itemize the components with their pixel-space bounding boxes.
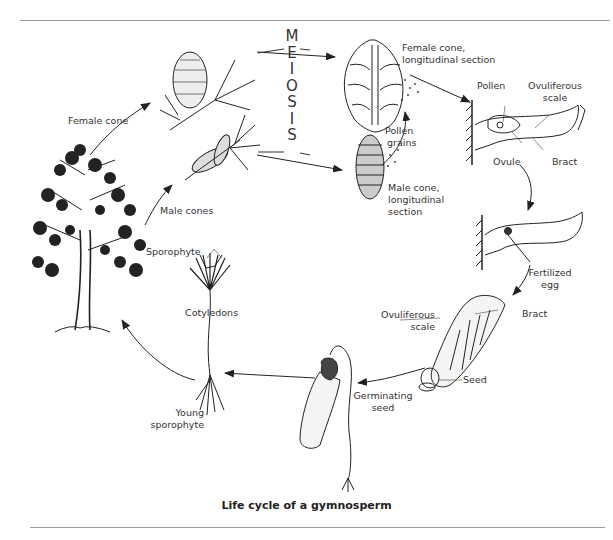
label-germinating-seed-line2: seed	[348, 402, 418, 414]
meiosis-letter: S	[285, 94, 299, 111]
label-female-cone-section-line2: longitudinal section	[402, 54, 495, 66]
label-germinating-seed-line1: Germinating	[348, 390, 418, 402]
label-ovuliferous-scale-line2: scale	[515, 92, 595, 104]
germinating-seed-illustration	[300, 346, 354, 492]
label-pollen-grains-line1: Pollen	[385, 125, 413, 137]
label-seed: Seed	[463, 374, 487, 386]
meiosis-label: M E I O S I S	[285, 28, 299, 144]
label-ovuliferous-scale-line1: Ovuliferous	[515, 80, 595, 92]
meiosis-letter: I	[285, 111, 299, 128]
label-sporophyte: Sporophyte	[146, 246, 201, 258]
label-fertilized-egg-line1: Fertilized	[515, 267, 585, 279]
meiosis-letter: O	[285, 78, 299, 95]
label-bract-b: Bract	[522, 308, 547, 320]
label-male-cone-section-line3: section	[388, 206, 422, 218]
label-young-sporophyte-line1: Young	[130, 407, 204, 419]
figure-caption: Life cycle of a gymnosperm	[0, 499, 613, 512]
male-cones-illustration	[185, 115, 260, 180]
label-young-sporophyte-line2: sporophyte	[130, 419, 204, 431]
label-female-cone-section-line1: Female cone,	[402, 42, 465, 54]
label-male-cone-section-line1: Male cone,	[388, 182, 439, 194]
label-ovuliferous-scale-b-line1: Ovuliferous	[365, 309, 435, 321]
label-male-cone-section-line2: longitudinal	[388, 194, 444, 206]
female-cone-section-illustration	[344, 40, 403, 132]
meiosis-letter: I	[285, 61, 299, 78]
meiosis-letter: E	[285, 45, 299, 62]
male-cone-section-illustration	[356, 135, 384, 199]
label-ovule: Ovule	[493, 156, 521, 168]
meiosis-letter: S	[285, 127, 299, 144]
label-bract: Bract	[552, 156, 577, 168]
pine-tree-illustration	[32, 144, 146, 332]
label-male-cones: Male cones	[160, 205, 213, 217]
label-cotyledons: Cotyledons	[185, 307, 238, 319]
female-cone-illustration	[160, 52, 255, 130]
fertilized-egg-scale-illustration	[476, 212, 582, 270]
label-female-cone: Female cone	[68, 115, 128, 127]
label-pollen: Pollen	[477, 80, 505, 92]
young-sporophyte-illustration	[190, 253, 230, 415]
label-fertilized-egg-line2: egg	[515, 279, 585, 291]
label-pollen-grains-line2: grains	[387, 137, 416, 149]
meiosis-bracket	[258, 49, 310, 155]
meiosis-letter: M	[285, 28, 299, 45]
label-ovuliferous-scale-b-line2: scale	[365, 321, 435, 333]
